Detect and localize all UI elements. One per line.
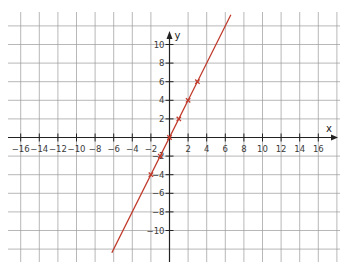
y-tick-label: −10 xyxy=(147,226,165,236)
y-tick-label: 10 xyxy=(154,40,165,50)
y-tick-label: −8 xyxy=(152,207,165,217)
x-tick-label: 12 xyxy=(276,144,287,154)
y-axis-arrow-icon xyxy=(167,31,173,39)
x-tick-label: −4 xyxy=(126,144,139,154)
x-tick-label: −8 xyxy=(89,144,102,154)
function-line xyxy=(112,15,231,253)
x-tick-label: 10 xyxy=(257,144,268,154)
x-tick-label: 8 xyxy=(241,144,246,154)
y-axis-label: y xyxy=(175,30,181,41)
y-tick-label: 2 xyxy=(159,114,164,124)
y-tick-label: 6 xyxy=(159,77,164,87)
y-tick-label: −6 xyxy=(152,188,165,198)
x-tick-label: −16 xyxy=(12,144,30,154)
coordinate-plane: −16−14−12−10−8−6−4−2246810121416108642−2… xyxy=(0,0,348,265)
x-tick-label: −12 xyxy=(49,144,67,154)
x-tick-label: 6 xyxy=(223,144,228,154)
x-tick-label: −14 xyxy=(30,144,48,154)
x-axis-label: x xyxy=(326,123,332,134)
series-line xyxy=(112,15,231,253)
x-tick-label: −6 xyxy=(107,144,120,154)
y-tick-label: −4 xyxy=(152,170,165,180)
x-tick-label: 4 xyxy=(204,144,209,154)
x-tick-label: 2 xyxy=(185,144,190,154)
x-tick-label: −10 xyxy=(68,144,86,154)
x-tick-label: 14 xyxy=(294,144,305,154)
y-tick-label: 4 xyxy=(159,95,164,105)
y-tick-label: 8 xyxy=(159,58,164,68)
x-tick-label: 16 xyxy=(313,144,324,154)
